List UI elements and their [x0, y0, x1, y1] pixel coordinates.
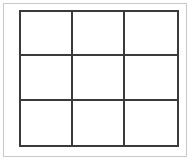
grid-cell-r2c2[interactable]: [73, 56, 125, 100]
grid-cell-r1c1[interactable]: [21, 12, 73, 56]
grid-cell-r3c1[interactable]: [21, 101, 73, 145]
grid-cell-r3c3[interactable]: [125, 101, 177, 145]
grid-cell-r1c3[interactable]: [125, 12, 177, 56]
grid-board[interactable]: [19, 10, 179, 147]
grid-cell-r3c2[interactable]: [73, 101, 125, 145]
figure-canvas: [0, 0, 193, 161]
grid-cell-r1c2[interactable]: [73, 12, 125, 56]
grid-cell-r2c3[interactable]: [125, 56, 177, 100]
grid-cell-r2c1[interactable]: [21, 56, 73, 100]
